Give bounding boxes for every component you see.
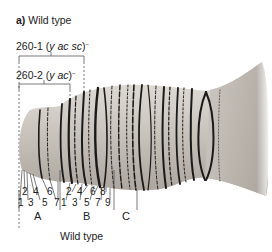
band-number: 7 — [95, 197, 101, 208]
band-number: 3 — [72, 197, 78, 208]
band-number: 6 — [47, 186, 53, 197]
band-number: 4 — [33, 186, 39, 197]
band-number: 1 — [61, 197, 67, 208]
band-number: 4 — [77, 186, 83, 197]
band-number: 7 — [54, 197, 60, 208]
figure-caption: Wild type — [60, 230, 103, 242]
band-number: 2 — [22, 186, 28, 197]
band-number: 1 — [18, 197, 24, 208]
band-number: 8 — [100, 186, 106, 197]
band-number: 2 — [66, 186, 72, 197]
band-number: 6 — [90, 186, 96, 197]
region-label-b: B — [83, 210, 90, 222]
band-number: 5 — [42, 197, 48, 208]
bracket-260-2 — [19, 80, 70, 102]
band-number: 5 — [84, 197, 90, 208]
region-label-a: A — [34, 210, 41, 222]
band-number: 3 — [28, 197, 34, 208]
chromosome — [19, 62, 269, 196]
region-label-c: C — [122, 210, 130, 222]
band-number: 9 — [105, 197, 111, 208]
